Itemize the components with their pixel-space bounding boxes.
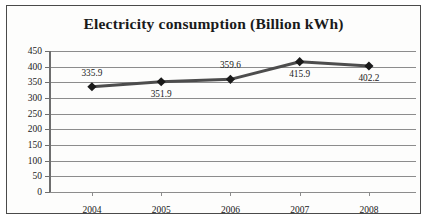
y-axis-tick-label: 300	[28, 93, 42, 103]
chart-frame: Electricity consumption (Billion kWh) 05…	[6, 5, 421, 214]
chart-title: Electricity consumption (Billion kWh)	[7, 15, 420, 33]
y-axis-tick-label: 400	[28, 62, 42, 72]
gridline	[49, 192, 416, 193]
data-point-marker	[295, 57, 304, 66]
data-point-marker	[157, 77, 166, 86]
x-axis-tick-label: 2007	[290, 205, 309, 215]
y-tick-mark	[45, 192, 50, 193]
x-tick-mark	[230, 192, 231, 196]
x-tick-mark	[369, 192, 370, 196]
data-point-label: 351.9	[151, 89, 172, 99]
y-axis-tick-label: 150	[28, 140, 42, 150]
y-axis-tick-label: 450	[28, 46, 42, 56]
y-axis-tick-label: 350	[28, 77, 42, 87]
x-tick-mark	[300, 192, 301, 196]
data-point-marker	[364, 61, 373, 70]
x-tick-mark	[161, 192, 162, 196]
x-axis-tick-label: 2005	[152, 205, 171, 215]
data-point-marker	[226, 75, 235, 84]
data-point-label: 415.9	[289, 69, 310, 79]
x-axis-tick-label: 2004	[82, 205, 101, 215]
y-axis-tick-label: 0	[37, 187, 42, 197]
x-tick-mark	[92, 192, 93, 196]
y-axis-tick-label: 50	[33, 171, 43, 181]
y-axis-tick-label: 250	[28, 109, 42, 119]
x-axis-tick-label: 2006	[221, 205, 240, 215]
x-axis-tick-label: 2008	[359, 205, 378, 215]
y-axis-tick-label: 200	[28, 124, 42, 134]
y-axis-tick-label: 100	[28, 156, 42, 166]
data-point-label: 402.2	[358, 73, 379, 83]
data-point-label: 335.9	[81, 68, 102, 78]
plot-area: 050100150200250300350400450 200420052006…	[49, 51, 416, 192]
data-point-label: 359.6	[220, 60, 241, 70]
data-point-marker	[87, 82, 96, 91]
